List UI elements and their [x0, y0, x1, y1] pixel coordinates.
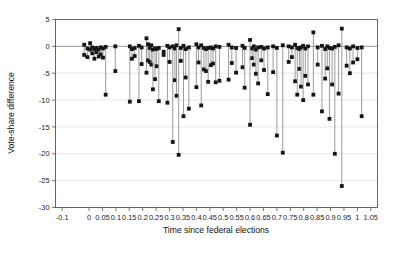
x-axis-title: Time since federal elections	[163, 225, 269, 235]
range-segment	[211, 47, 215, 66]
x-axis-ticks	[62, 208, 371, 212]
range-segment	[295, 46, 299, 97]
y-axis-title: Vote-share difference	[6, 72, 16, 154]
x-tick-label: 0.55	[229, 213, 243, 222]
x-tick-label: 0.3	[164, 213, 174, 222]
x-tick-label: -0.1	[56, 213, 69, 222]
x-tick-label: 0.75	[283, 213, 297, 222]
range-segment	[165, 44, 169, 105]
x-tick-label: 0.15	[122, 213, 136, 222]
range-segment	[234, 46, 238, 75]
range-segment	[182, 44, 186, 118]
range-segment	[275, 46, 279, 137]
x-tick-label: 0.2	[138, 213, 148, 222]
range-segment	[197, 46, 201, 65]
chart-canvas: 50-5-10-15-20-25-30 -0.100.050.10.150.20…	[0, 0, 406, 257]
range-segment	[355, 46, 359, 61]
y-tick-label: -15	[39, 123, 50, 132]
y-tick-label: -5	[43, 69, 50, 78]
range-segment	[104, 45, 108, 97]
range-segment	[128, 44, 132, 103]
range-segment	[351, 44, 355, 64]
range-segment	[157, 46, 161, 103]
y-tick-label: -25	[39, 176, 50, 185]
range-segment	[140, 46, 144, 66]
y-tick-label: 5	[45, 15, 49, 24]
range-segment	[311, 30, 315, 96]
vote-share-difference-chart: 50-5-10-15-20-25-30 -0.100.050.10.150.20…	[0, 0, 406, 257]
range-segment	[330, 47, 334, 87]
range-segment	[323, 47, 327, 80]
range-segment	[337, 43, 341, 95]
range-segment	[133, 46, 137, 58]
x-tick-label: 0.6	[245, 213, 255, 222]
range-segment	[199, 43, 203, 107]
range-segment	[171, 44, 175, 143]
y-axis-tick-labels: 50-5-10-15-20-25-30	[39, 15, 50, 212]
range-segment	[218, 45, 222, 83]
range-segment	[179, 46, 183, 63]
range-segment	[340, 27, 344, 188]
x-tick-label: 1	[355, 213, 359, 222]
range-segment	[281, 43, 285, 154]
range-segment	[254, 48, 258, 76]
x-tick-label: 0.25	[149, 213, 163, 222]
range-segment	[248, 38, 252, 127]
range-segment	[271, 44, 275, 74]
range-segment	[266, 46, 270, 97]
data-segments	[56, 27, 378, 188]
y-tick-label: -20	[39, 149, 50, 158]
x-tick-label: 0.05	[95, 213, 109, 222]
x-tick-label: 0.65	[256, 213, 270, 222]
x-tick-label: 0.1	[111, 213, 121, 222]
range-segment	[360, 46, 364, 119]
x-axis-tick-labels: -0.100.050.10.150.20.250.30.350.40.450.5…	[56, 213, 378, 222]
range-segment	[168, 46, 172, 64]
range-segment	[230, 46, 234, 65]
range-segment	[306, 44, 310, 86]
range-segment	[256, 46, 260, 86]
x-tick-label: 0.4	[191, 213, 201, 222]
x-tick-label: 0.9	[325, 213, 335, 222]
x-tick-label: 0.7	[272, 213, 282, 222]
range-segment	[290, 46, 294, 59]
x-tick-label: 0	[87, 213, 91, 222]
range-segment	[113, 44, 117, 73]
x-tick-label: 1.05	[364, 213, 378, 222]
range-segment	[162, 50, 166, 57]
x-tick-label: 0.5	[218, 213, 228, 222]
y-tick-label: -10	[39, 96, 50, 105]
range-segment	[316, 46, 320, 67]
x-tick-label: 0.35	[176, 213, 190, 222]
x-tick-label: 0.45	[203, 213, 217, 222]
x-tick-label: 0.95	[337, 213, 351, 222]
y-tick-label: 0	[45, 42, 49, 51]
range-segment	[184, 47, 188, 79]
y-tick-label: -30	[39, 203, 50, 212]
y-axis-ticks	[52, 20, 56, 208]
x-tick-label: 0.8	[299, 213, 309, 222]
x-tick-label: 0.85	[310, 213, 324, 222]
